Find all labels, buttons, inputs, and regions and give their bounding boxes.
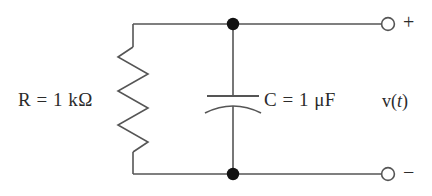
junction-node-bottom: [227, 168, 239, 180]
terminal-positive-open-circle: [382, 18, 395, 31]
voltage-label-suffix: ): [402, 91, 408, 111]
terminal-positive-sign: +: [403, 12, 414, 32]
output-voltage-label: v(t): [382, 92, 408, 110]
capacitor-value-label: C = 1 μF: [264, 90, 336, 109]
resistor-value-label: R = 1 kΩ: [18, 90, 93, 109]
terminal-negative-open-circle: [382, 168, 395, 181]
voltage-label-prefix: v(: [382, 91, 397, 111]
resistor-zigzag-symbol: [118, 47, 148, 152]
terminal-negative-sign: −: [403, 162, 414, 182]
rc-circuit-diagram: R = 1 kΩ C = 1 μF v(t) + −: [0, 0, 432, 196]
junction-node-top: [227, 18, 239, 30]
